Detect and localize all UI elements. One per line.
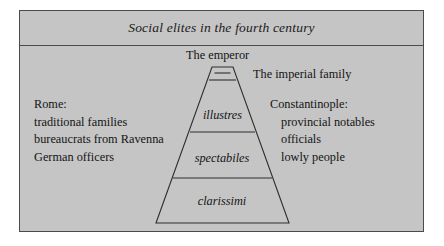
left-column-item-1: bureaucrats from Ravenna <box>34 131 164 149</box>
right-text-column: Constantinople: provincial notables offi… <box>270 96 375 166</box>
label-emperor: The emperor <box>186 48 249 63</box>
right-column-heading: Constantinople: <box>270 96 375 114</box>
pyramid-tier-illustres: illustres <box>170 108 275 123</box>
figure-title-bar: Social elites in the fourth century <box>20 11 423 46</box>
pyramid-tier-spectabiles: spectabiles <box>162 151 282 166</box>
figure-container: Social elites in the fourth century The … <box>19 10 424 232</box>
left-column-item-0: traditional families <box>34 114 164 132</box>
right-column-item-0: provincial notables <box>270 114 375 132</box>
pyramid-tier-clarissimi: clarissimi <box>167 194 277 209</box>
figure-title: Social elites in the fourth century <box>128 20 315 36</box>
figure-body: The emperor The imperial family illustre… <box>20 46 423 232</box>
left-column-heading: Rome: <box>34 96 164 114</box>
left-text-column: Rome: traditional families bureaucrats f… <box>34 96 164 166</box>
right-column-item-2: lowly people <box>270 149 375 167</box>
right-column-item-1: officials <box>270 131 375 149</box>
left-column-item-2: German officers <box>34 149 164 167</box>
label-imperial-family: The imperial family <box>253 67 351 82</box>
